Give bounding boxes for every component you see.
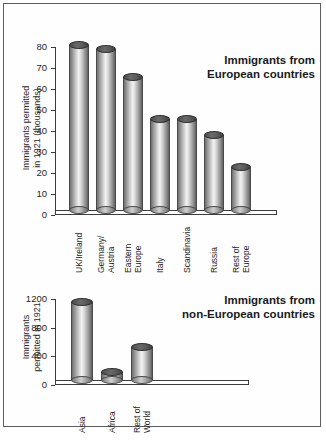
y-axis-tick-label: 0	[17, 379, 47, 390]
figure-root: Immigrants from European countries Immig…	[0, 0, 326, 442]
bar-uk-ireland	[69, 45, 89, 211]
bar-top-ellipse	[204, 131, 224, 139]
x-axis-category-label-line: Europe	[134, 219, 144, 273]
bar-base-ellipse	[101, 376, 123, 384]
y-axis-tick	[51, 299, 55, 300]
x-axis-category-label: Russia	[210, 219, 220, 273]
x-axis-category-label: EasternEurope	[124, 219, 143, 273]
y-axis-tick-label: 0	[17, 209, 47, 220]
x-axis-category-label: Asia	[78, 389, 88, 433]
chart-panel-non-european: Immigrants from non-European countries I…	[3, 285, 321, 427]
x-axis-category-label: Rest ofWorld	[133, 389, 152, 433]
x-axis-category-label-line: UK/Ireland	[75, 219, 85, 273]
y-axis-tick-label: 50	[17, 104, 47, 115]
bar-russia	[204, 135, 224, 211]
y-axis-line	[55, 299, 56, 385]
plot-area-european: 01020304050607080UK/IrelandGermany/Austr…	[55, 47, 317, 215]
bar-base-ellipse	[177, 206, 197, 214]
bar-africa	[101, 372, 123, 381]
y-axis-tick	[51, 356, 55, 357]
bar-base-ellipse	[96, 206, 116, 214]
bar-rest-of-world	[131, 347, 153, 381]
x-axis-category-label: UK/Ireland	[75, 219, 85, 273]
x-axis-category-label: Italy	[156, 219, 166, 273]
x-axis-category-label-line: Africa	[108, 389, 118, 433]
plot-area-non-european: 04008001200AsiaAfricaRest ofWorld	[55, 299, 317, 385]
bar-base-ellipse	[150, 206, 170, 214]
y-axis-tick	[51, 215, 55, 216]
x-axis-category-label-line: Scandinavia	[183, 219, 193, 273]
bar-base-ellipse	[204, 206, 224, 214]
bar-base-ellipse	[231, 206, 251, 214]
y-axis-tick-label: 1200	[17, 293, 47, 304]
bar-germany-austria	[96, 49, 116, 211]
bar-top-ellipse	[101, 368, 123, 376]
y-axis-tick-label: 20	[17, 167, 47, 178]
y-axis-tick-label: 80	[17, 41, 47, 52]
bar-base-ellipse	[123, 206, 143, 214]
y-axis-tick-label: 40	[17, 125, 47, 136]
y-axis-tick	[51, 47, 55, 48]
y-axis-tick-label: 800	[17, 322, 47, 333]
bar-top-ellipse	[231, 163, 251, 171]
x-axis-category-label-line: World	[143, 389, 153, 433]
y-axis-tick	[51, 131, 55, 132]
y-axis-tick-label: 60	[17, 83, 47, 94]
y-axis-tick-label: 400	[17, 350, 47, 361]
bar-asia	[71, 302, 93, 381]
y-axis-tick	[51, 110, 55, 111]
x-axis-category-label-line: Austria	[107, 219, 117, 273]
x-axis-category-label-line: Russia	[210, 219, 220, 273]
bar-base-ellipse	[69, 206, 89, 214]
x-axis-category-label-line: Italy	[156, 219, 166, 273]
bar-base-ellipse	[71, 376, 93, 384]
bar-scandinavia	[177, 119, 197, 211]
bar-italy	[150, 119, 170, 211]
y-axis-tick	[51, 68, 55, 69]
y-axis-tick-label: 70	[17, 62, 47, 73]
x-axis-category-label: Rest ofEurope	[232, 219, 251, 273]
x-axis-category-label: Scandinavia	[183, 219, 193, 273]
bar-top-ellipse	[71, 298, 93, 306]
x-axis-category-label-line: Europe	[242, 219, 252, 273]
y-axis-tick	[51, 173, 55, 174]
bar-top-ellipse	[177, 115, 197, 123]
chart-panel-european: Immigrants from European countries Immig…	[3, 3, 321, 285]
x-axis-category-label: Africa	[108, 389, 118, 433]
y-axis-tick	[51, 194, 55, 195]
bar-top-ellipse	[96, 45, 116, 53]
x-axis-category-label: Germany/Austria	[97, 219, 116, 273]
bar-top-ellipse	[131, 343, 153, 351]
bar-base-ellipse	[131, 376, 153, 384]
y-axis-line	[55, 47, 56, 215]
x-axis-category-label-line: Asia	[78, 389, 88, 433]
bar-eastern-europe	[123, 77, 143, 211]
y-axis-tick	[51, 152, 55, 153]
y-axis-tick	[51, 328, 55, 329]
y-axis-tick	[51, 385, 55, 386]
y-axis-tick-label: 10	[17, 188, 47, 199]
bar-top-ellipse	[123, 73, 143, 81]
bar-top-ellipse	[150, 115, 170, 123]
y-axis-tick	[51, 89, 55, 90]
bar-top-ellipse	[69, 41, 89, 49]
y-axis-tick-label: 30	[17, 146, 47, 157]
bar-rest-of-europe	[231, 167, 251, 211]
